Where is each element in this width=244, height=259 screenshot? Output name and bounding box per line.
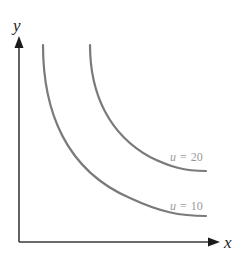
curve-label-u20: u = 20 <box>170 150 203 164</box>
curve-label-u20-variable: u <box>170 150 176 164</box>
curve-label-u20-equals: = <box>180 150 187 164</box>
curve-label-u10: u = 10 <box>170 199 203 213</box>
x-axis-label: x <box>223 233 232 252</box>
curve-label-u10-value: 10 <box>191 199 203 213</box>
curve-label-u20-value: 20 <box>191 150 203 164</box>
y-axis-label: y <box>11 16 21 35</box>
curve-label-u10-variable: u <box>170 199 176 213</box>
x-axis-arrowhead <box>208 238 220 247</box>
curve-u10 <box>43 45 206 216</box>
indifference-curve-diagram: y x u = 20 u = 10 <box>0 0 244 259</box>
y-axis-arrowhead <box>15 36 24 48</box>
curve-label-u10-equals: = <box>180 199 187 213</box>
